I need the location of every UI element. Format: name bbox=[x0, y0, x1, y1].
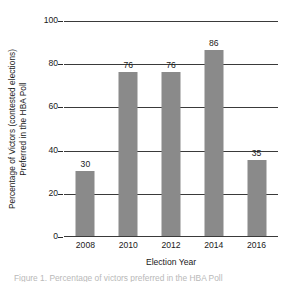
x-axis-ticks: 20082010201220142016 bbox=[64, 240, 278, 254]
y-axis-title-text: Percentage of Victors (contested electio… bbox=[7, 49, 28, 209]
bar-group[interactable]: 35 bbox=[235, 21, 278, 236]
y-axis-tick-mark bbox=[58, 21, 63, 22]
y-axis-tick-label: 60 bbox=[36, 102, 58, 111]
bar[interactable] bbox=[76, 171, 95, 236]
figure-caption: Figure 1. Percentage of victors preferre… bbox=[14, 273, 276, 282]
bar[interactable] bbox=[204, 50, 223, 236]
x-axis-tick-label: 2014 bbox=[192, 240, 235, 251]
plot-area: 3076768635 bbox=[64, 21, 278, 237]
y-axis-tick-mark bbox=[58, 194, 63, 195]
y-axis-tick-label: 80 bbox=[36, 59, 58, 68]
bar-value-label: 76 bbox=[123, 61, 133, 70]
x-axis-tick-label: 2012 bbox=[150, 240, 193, 251]
bar-value-label: 35 bbox=[252, 149, 262, 158]
bar-series: 3076768635 bbox=[64, 21, 278, 237]
bar-group[interactable]: 86 bbox=[192, 21, 235, 236]
bar-value-label: 86 bbox=[209, 39, 219, 48]
bar[interactable] bbox=[119, 72, 138, 236]
y-axis-title-line2: Preferred in the HBA Poll bbox=[17, 49, 28, 209]
bar-group[interactable]: 30 bbox=[64, 21, 107, 236]
bar[interactable] bbox=[161, 72, 180, 236]
x-axis-tick-label: 2016 bbox=[235, 240, 278, 251]
y-axis-tick-mark bbox=[58, 107, 63, 108]
y-axis-title-line1: Percentage of Victors (contested electio… bbox=[7, 49, 18, 209]
y-axis-tick-label: 40 bbox=[36, 146, 58, 155]
bar-chart-figure: Percentage of Victors (contested electio… bbox=[0, 0, 290, 282]
bar-value-label: 76 bbox=[166, 61, 176, 70]
x-axis-tick-label: 2008 bbox=[64, 240, 107, 251]
y-axis-tick-label: 100 bbox=[36, 16, 58, 25]
y-axis-tick-mark bbox=[58, 237, 63, 238]
x-axis-tick-label: 2010 bbox=[107, 240, 150, 251]
bar-value-label: 30 bbox=[81, 160, 91, 169]
bar-group[interactable]: 76 bbox=[150, 21, 193, 236]
y-axis-tick-mark bbox=[58, 151, 63, 152]
bar-group[interactable]: 76 bbox=[107, 21, 150, 236]
y-axis-title: Percentage of Victors (contested electio… bbox=[0, 0, 34, 258]
bar[interactable] bbox=[247, 160, 266, 236]
y-axis-tick-label: 0 bbox=[36, 232, 58, 241]
y-axis-tick-label: 20 bbox=[36, 189, 58, 198]
x-axis-title: Election Year bbox=[64, 257, 278, 268]
y-axis-tick-mark bbox=[58, 64, 63, 65]
y-axis-ticks: 020406080100 bbox=[34, 0, 58, 282]
